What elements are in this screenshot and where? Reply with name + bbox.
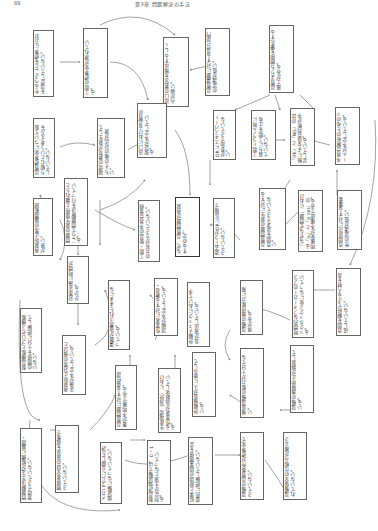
node-n8: 出口における品質の保証が不足している。 [137,103,167,158]
node-n22: 作業者に対する教育・訓練が不足している。 [154,278,178,336]
node-n5: 品質よりも納期を優先する風土がある。 [269,25,294,93]
node-n35: 関係者全員の意見を収集できていない。 [55,425,79,493]
node-n34: 問題解決手法が組織に展開・習得できていない。 [20,428,42,503]
node-n19: 再発防止策の展開範囲が狭い。 [33,198,53,256]
node-n12: 不具合解析のためのツールが不足している。 [335,107,360,165]
node-n33: 設備の故障停止が頻発している。 [290,345,314,413]
node-n40: 設備保全の仕組みが確立されていない。 [283,432,307,500]
node-n6: 品質標準化について取り組むという考え方をしていない。 [33,118,55,178]
node-n20: 対策実施に時間がかかる。 [67,256,89,304]
node-n28: 再発防止対策の検討と実施が不足している。 [62,335,86,395]
node-n29: 品質問題に対する責任部署が不明確である。 [115,365,137,430]
node-n38: 結果と原因の因果関係を定量的に把握していない。 [188,437,213,505]
node-n4: 品質課題に対する設計 部門の認識が低い。 [205,28,230,96]
node-n21: 課題が放置されたままになっている。 [108,280,130,350]
node-n27: 製品機能とプロセス機能の関係を十分に把握していない。 [20,308,42,373]
node-n26: 真因を解析できる人材を育成していない。 [336,268,361,336]
node-n23: 外観チェックにおいて不良が流出している。 [187,282,210,347]
node-n2: 工程の標準化が遅れている。 [83,28,108,98]
node-n3: 出口の異常を検出する しくみが弱い。 [163,37,189,107]
node-n15: 過去トラがDRに反映できていない。 [213,198,235,258]
node-n7: 現場の異常が発生しても その後の対応が遅い。 [97,118,125,178]
node-n32: 検査設備の能力が十分でない。 [240,348,264,418]
node-n9: DRにエキスパートが参加できていない。 [213,110,236,160]
node-n16: 品質問題の発生に対する真因を追求できていない。 [259,188,286,250]
node-n39: 設備の品質条件が標準化できていない。 [240,432,264,500]
node-n31: 外観検査が人に依存している。 [192,352,216,417]
node-n37: 製品評価試験では、0・1判定が主流となっている。 [147,440,171,505]
core-problem-node: なぜ、品質問題が再発するのか？ [175,197,200,257]
node-n14: 工程・製品の不具合事例の共有ができていない。 [138,200,160,262]
node-n36: メカニズムに立脚した評価試験になっていない。 [100,442,122,504]
node-n17: 「なぜなぜ問題」における「is」と「is not」の明確化が不徹底である。 [298,190,323,252]
node-n13: 問題の発生箇所と離れたところで問題解決を行っている。 [64,178,88,246]
node-n1: やるべきことを標準に方針を設定していない。 [33,30,54,97]
node-n11: 「OK」と「NG」の比較による良否判断が不足している。 [290,108,315,166]
node-n10: 工程トラブル時に直ちに工程を止めていない。 [251,110,276,160]
node-n24: 設備の維持能力に限界がある。 [240,280,263,335]
node-n25: 時間的なフォーカーのブラックボックス化になっている。 [292,270,314,338]
node-n18: 真因追究に対する重要性の認識が低い。 [337,190,362,250]
node-n30: 生産現場（海外）における作業者が高齢化している。 [158,368,181,433]
